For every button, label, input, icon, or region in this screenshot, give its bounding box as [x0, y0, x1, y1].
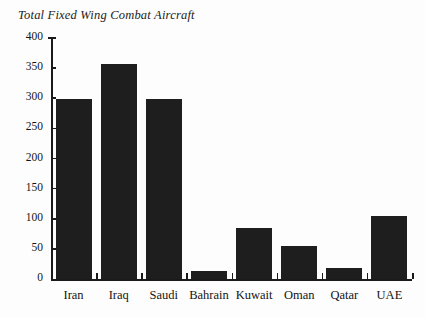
x-tick-mark — [412, 273, 414, 279]
y-tick-label: 350 — [26, 60, 43, 72]
bar-qatar — [326, 268, 362, 279]
x-label-iran: Iran — [64, 288, 84, 303]
y-tick-label: 0 — [37, 271, 43, 283]
x-label-saudi: Saudi — [150, 288, 178, 303]
bar-saudi — [146, 99, 182, 279]
y-tick-label: 50 — [32, 241, 44, 253]
chart-figure: Total Fixed Wing Combat Aircraft 0501001… — [0, 0, 425, 317]
bar-iran — [56, 99, 92, 279]
bar-kuwait — [236, 228, 272, 279]
x-axis-line — [51, 279, 412, 281]
y-tick-label: 100 — [26, 211, 43, 223]
x-label-uae: UAE — [377, 288, 403, 303]
x-label-kuwait: Kuwait — [236, 288, 273, 303]
bars-layer — [51, 38, 412, 279]
y-tick-label: 200 — [26, 151, 43, 163]
y-tick-label: 400 — [26, 30, 43, 42]
y-tick-label: 150 — [26, 181, 43, 193]
y-tick-label: 250 — [26, 120, 43, 132]
bar-bahrain — [191, 271, 227, 279]
chart-title: Total Fixed Wing Combat Aircraft — [18, 8, 195, 23]
y-tick-label: 300 — [26, 90, 43, 102]
x-label-iraq: Iraq — [109, 288, 129, 303]
bar-oman — [281, 246, 317, 279]
bar-uae — [371, 216, 407, 279]
x-label-qatar: Qatar — [330, 288, 358, 303]
x-label-bahrain: Bahrain — [189, 288, 229, 303]
bar-iraq — [101, 64, 137, 279]
x-label-oman: Oman — [284, 288, 315, 303]
